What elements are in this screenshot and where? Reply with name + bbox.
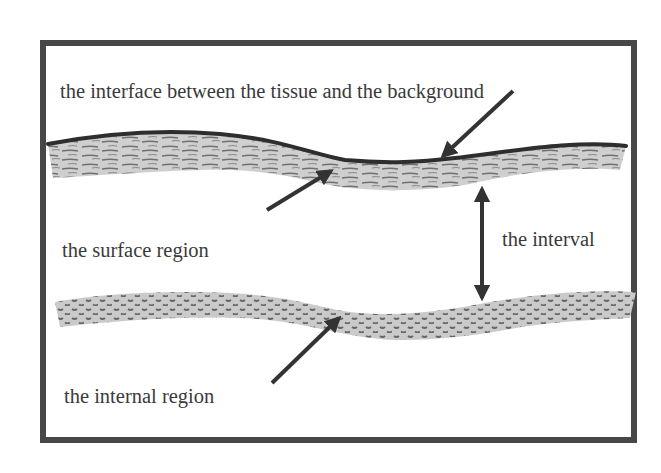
internal-band	[55, 291, 636, 340]
surface-band	[48, 132, 626, 190]
interval-label: the interval	[502, 228, 595, 250]
internal-region-arrow	[272, 318, 339, 383]
surface-region-label: the surface region	[62, 239, 209, 262]
internal-region-label: the internal region	[64, 385, 214, 408]
tissue-region-diagram: the interface between the tissue and the…	[0, 0, 661, 473]
interface-label: the interface between the tissue and the…	[60, 80, 484, 103]
